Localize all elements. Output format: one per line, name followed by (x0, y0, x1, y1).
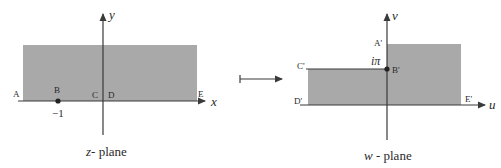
z-point-e-label: E (198, 89, 204, 99)
w-point-e-label: E' (465, 94, 472, 104)
z-plane: y x A B C D E −1 z- plane (13, 7, 217, 159)
w-point-d-label: D' (294, 96, 302, 106)
w-v-axis-label: v (392, 8, 398, 23)
mapsto-arrow-icon (240, 75, 282, 83)
z-plane-caption: z- plane (85, 144, 127, 159)
w-caption-text: - plane (373, 148, 412, 163)
w-point-a-label: A' (374, 38, 382, 48)
w-point-b-dot (384, 66, 389, 71)
z-point-b-label: B (54, 85, 60, 95)
w-u-axis-label: u (489, 97, 496, 112)
conformal-map-diagram: y x A B C D E −1 z- plane v u A' iπ B' C… (0, 0, 501, 168)
w-caption-variable: w (364, 148, 373, 163)
w-plane: v u A' iπ B' C' D' E' w - plane (294, 8, 496, 163)
z-x-axis-label: x (210, 94, 217, 109)
z-point-b-dot (55, 98, 60, 103)
w-point-b-label: B' (392, 65, 400, 75)
z-point-c-label: C (92, 90, 98, 100)
z-point-a-label: A (13, 89, 20, 99)
z-point-d-label: D (108, 90, 115, 100)
w-shaded-lower-left (308, 69, 387, 105)
z-caption-text: - plane (91, 144, 127, 159)
z-tick-label-minus-one: −1 (52, 107, 64, 119)
w-plane-caption: w - plane (364, 148, 412, 163)
w-ipi-label: iπ (371, 54, 381, 68)
z-y-axis-label: y (107, 7, 115, 22)
w-point-c-label: C' (297, 61, 305, 71)
